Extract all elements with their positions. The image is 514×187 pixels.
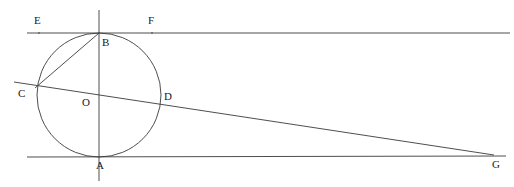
point-label-D: D [164,91,172,102]
point-label-B: B [102,37,109,48]
line-secant-CDG [14,82,494,155]
figure-canvas [0,0,514,187]
point-marker-E [38,32,40,34]
point-label-G: G [492,159,500,170]
line-chord-BC [35,33,99,88]
point-marker-F [151,32,153,34]
point-label-A: A [96,160,104,171]
point-label-E: E [34,15,41,26]
point-label-O: O [82,97,90,108]
geometry-diagram: E F B C O D A G [0,0,514,187]
point-label-F: F [148,15,154,26]
point-label-C: C [18,88,25,99]
